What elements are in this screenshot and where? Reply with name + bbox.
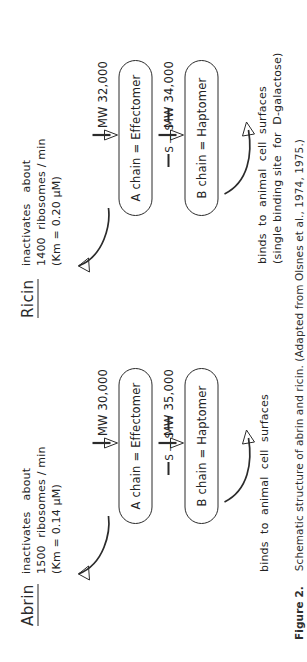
- binding-note-ricin-line1: binds to animal cell surfaces: [254, 86, 269, 264]
- group-title-abrin: Abrin: [18, 584, 38, 626]
- activity-note-abrin-line3: (Km = 0.14 µM): [48, 484, 63, 574]
- activity-note-abrin-line1: inactivates about: [18, 468, 33, 574]
- capsule-abrin-b-chain: B chain = Haptomer: [184, 368, 218, 524]
- binding-note-abrin-line1: binds to animal cell surfaces: [256, 394, 271, 572]
- activity-arrow-ricin: [58, 204, 114, 284]
- capsule-abrin-a-chain: A chain = Effectomer: [118, 368, 152, 524]
- activity-note-ricin-line3: (Km = 0.20 µM): [48, 176, 63, 266]
- mw-label-ricin-b-chain: MW 34,000: [161, 61, 175, 128]
- capsule-label-abrin-a-chain: A chain = Effectomer: [128, 383, 142, 510]
- mw-label-abrin-b-chain: MW 35,000: [161, 369, 175, 436]
- activity-arrow-abrin: [58, 512, 114, 592]
- group-title-ricin: Ricin: [18, 279, 38, 318]
- figure-caption: Figure 2. Schematic structure of abrin a…: [292, 139, 304, 640]
- group-panel-ricin: Ricin inactivates about 1400 ribosomes /…: [0, 24, 307, 324]
- capsule-ricin-b-chain: B chain = Haptomer: [184, 60, 218, 216]
- capsule-label-abrin-b-chain: B chain = Haptomer: [194, 386, 208, 507]
- disulfide-s-left: S: [162, 453, 174, 462]
- activity-note-abrin-line2: 1500 ribosomes / min: [33, 446, 48, 574]
- group-panel-abrin: Abrin inactivates about 1500 ribosomes /…: [0, 332, 307, 632]
- mw-label-ricin-a-chain: MW 32,000: [95, 61, 109, 128]
- capsule-label-ricin-a-chain: A chain = Effectomer: [128, 75, 142, 202]
- figure-canvas: Abrin inactivates about 1500 ribosomes /…: [0, 0, 307, 662]
- disulfide-s-left: S: [162, 145, 174, 154]
- capsule-ricin-a-chain: A chain = Effectomer: [118, 60, 152, 216]
- binding-note-ricin-line2: (single binding site for D-galactose): [269, 53, 284, 264]
- disulfide-dash: —: [162, 132, 174, 145]
- activity-note-ricin-line1: inactivates about: [18, 160, 33, 266]
- mw-arrow-abrin-a-chain: [92, 438, 118, 448]
- activity-note-ricin-line2: 1400 ribosomes / min: [33, 138, 48, 266]
- disulfide-dash: —: [162, 440, 174, 453]
- figure-caption-text: Schematic structure of abrin and ricin. …: [292, 139, 304, 571]
- binding-arrow-abrin: [218, 414, 260, 504]
- mw-label-abrin-a-chain: MW 30,000: [95, 369, 109, 436]
- mw-arrow-ricin-a-chain: [92, 130, 118, 140]
- capsule-label-ricin-b-chain: B chain = Haptomer: [194, 78, 208, 199]
- figure-caption-label: Figure 2.: [292, 586, 304, 640]
